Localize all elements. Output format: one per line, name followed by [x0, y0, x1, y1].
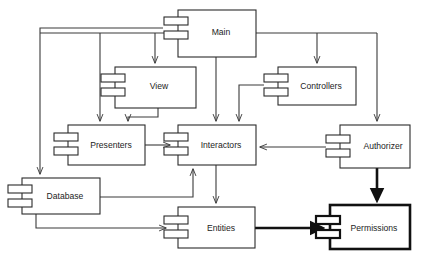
connector-main-left-bus — [40, 28, 163, 33]
connector-view-to-presenters — [128, 108, 158, 121]
component-diagram-svg: Main View Controllers — [0, 0, 422, 257]
component-permissions-label: Permissions — [351, 223, 398, 233]
component-database[interactable]: Database — [8, 178, 100, 214]
component-controllers-label: Controllers — [300, 81, 342, 91]
component-permissions[interactable]: Permissions — [316, 205, 410, 249]
connector-controllers-to-interactors — [239, 85, 264, 121]
component-authorizer[interactable]: Authorizer — [326, 125, 410, 168]
component-main[interactable]: Main — [164, 10, 256, 57]
component-presenters[interactable]: Presenters — [54, 125, 145, 165]
component-interactors[interactable]: Interactors — [164, 125, 256, 165]
component-view[interactable]: View — [101, 67, 196, 108]
component-main-label: Main — [212, 27, 231, 37]
component-interactors-label: Interactors — [201, 140, 242, 150]
component-authorizer-label: Authorizer — [363, 141, 402, 151]
component-entities[interactable]: Entities — [164, 207, 255, 248]
component-view-label: View — [150, 81, 169, 91]
component-diagram-canvas: Main View Controllers — [0, 0, 422, 257]
component-entities-label: Entities — [207, 223, 235, 233]
component-database-label: Database — [47, 191, 84, 201]
connector-database-to-interactors — [100, 169, 193, 197]
component-controllers[interactable]: Controllers — [264, 67, 356, 105]
component-presenters-label: Presenters — [90, 140, 132, 150]
